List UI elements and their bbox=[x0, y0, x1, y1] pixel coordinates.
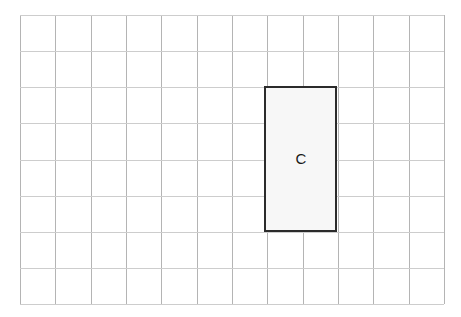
rectangle-c-label: C bbox=[296, 151, 307, 166]
figure-canvas: C bbox=[0, 0, 461, 317]
shape-layer: C bbox=[0, 0, 461, 317]
